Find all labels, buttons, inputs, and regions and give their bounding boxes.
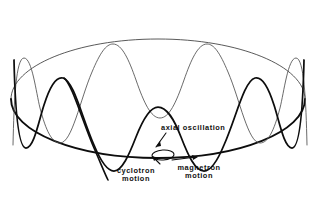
label-magnetron-motion: magnetron motion bbox=[170, 164, 228, 181]
label-magnetron-line2: motion bbox=[185, 171, 213, 180]
label-cyclotron-line2: motion bbox=[122, 174, 150, 183]
label-cyclotron-motion: cyclotron motion bbox=[110, 167, 162, 184]
label-axial-oscillation: axial oscillation bbox=[161, 124, 225, 132]
